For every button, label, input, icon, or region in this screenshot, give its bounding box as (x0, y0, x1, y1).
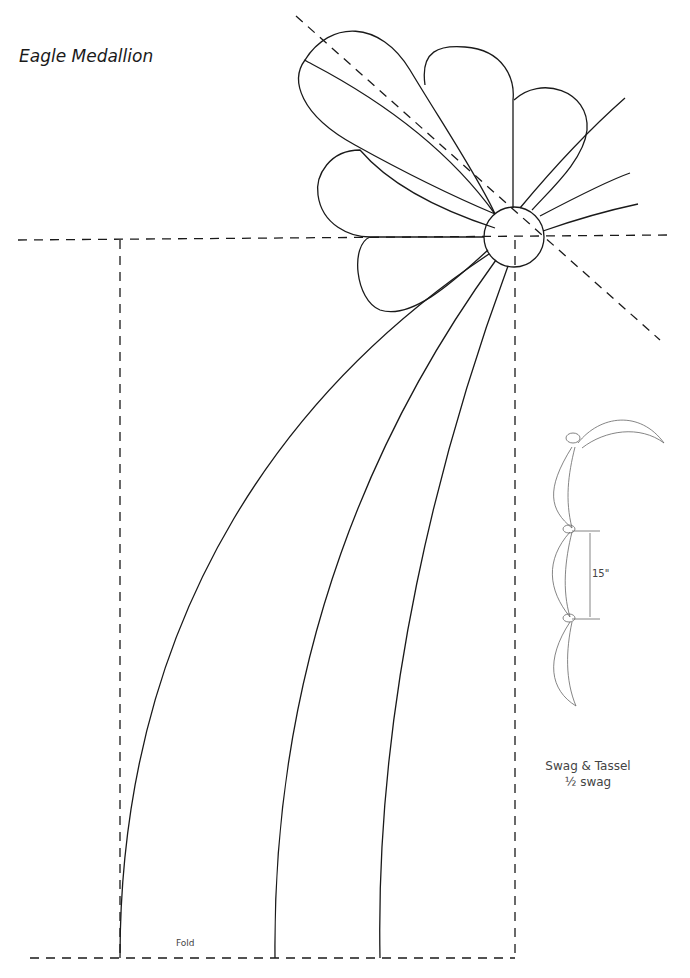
swag-sub-label: ½ swag (528, 775, 648, 789)
dimension-label: 15" (592, 568, 609, 579)
swag-title-label: Swag & Tassel (528, 759, 648, 773)
center-circle (484, 207, 544, 267)
swag-tassel-sketch (552, 420, 664, 706)
pattern-page: Eagle Medallion (0, 0, 690, 978)
fold-label: Fold (176, 938, 195, 948)
medallion-diagram (0, 0, 690, 978)
fold-guides (18, 16, 670, 960)
